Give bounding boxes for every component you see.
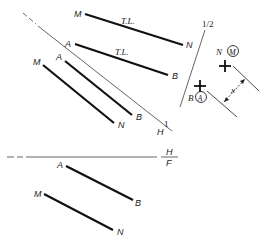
label-n: N xyxy=(117,227,124,237)
technical-drawing: 1 H 1/2 M N T.L. A B T.L. A B M N N M xyxy=(0,0,271,247)
label-a: A xyxy=(56,160,63,170)
fold-label-1: 1 xyxy=(164,119,169,129)
tl-annotation: T.L. xyxy=(115,47,129,57)
aux2-planes-distance: x xyxy=(207,66,259,117)
label-b: B xyxy=(172,71,178,81)
label-a-circled: A xyxy=(197,94,203,103)
arrow-icon xyxy=(224,97,229,102)
aux1-line-mn: M N T.L. xyxy=(74,9,193,50)
label-b: B xyxy=(136,112,142,122)
label-m: M xyxy=(34,189,42,199)
tl-annotation: T.L. xyxy=(121,16,135,26)
fold-line-h-1: 1 H xyxy=(23,13,172,137)
label-b: B xyxy=(135,198,141,208)
fold-label-h: H xyxy=(157,127,164,137)
distance-label-x: x xyxy=(230,85,235,95)
label-n: N xyxy=(118,120,125,130)
label-n: N xyxy=(186,40,193,50)
fold-label-f: F xyxy=(166,158,172,168)
front-line-ab: A B xyxy=(56,160,141,208)
top-line-mn: M N xyxy=(33,57,125,130)
label-m-circled: M xyxy=(228,48,237,57)
label-a: A xyxy=(55,52,62,62)
aux2-point-ab: B A xyxy=(188,80,207,103)
label-b: B xyxy=(188,93,194,103)
fold-label-h: H xyxy=(166,147,173,157)
fold-line-h-f: H F xyxy=(7,147,178,168)
fold-label-1-2: 1/2 xyxy=(202,19,214,29)
label-n: N xyxy=(215,47,223,57)
label-m: M xyxy=(33,57,41,67)
label-a: A xyxy=(64,39,71,49)
front-line-mn: M N xyxy=(34,189,124,237)
label-m: M xyxy=(74,9,82,19)
